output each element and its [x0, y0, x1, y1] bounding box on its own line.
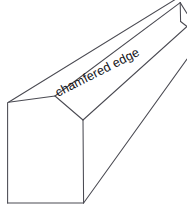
near-end-face [7, 96, 83, 203]
chamfered-bar-illustration: chamfered edge [0, 0, 187, 210]
technical-drawing-canvas: chamfered edge [0, 0, 187, 210]
edge-end-right-vertical [83, 120, 84, 203]
